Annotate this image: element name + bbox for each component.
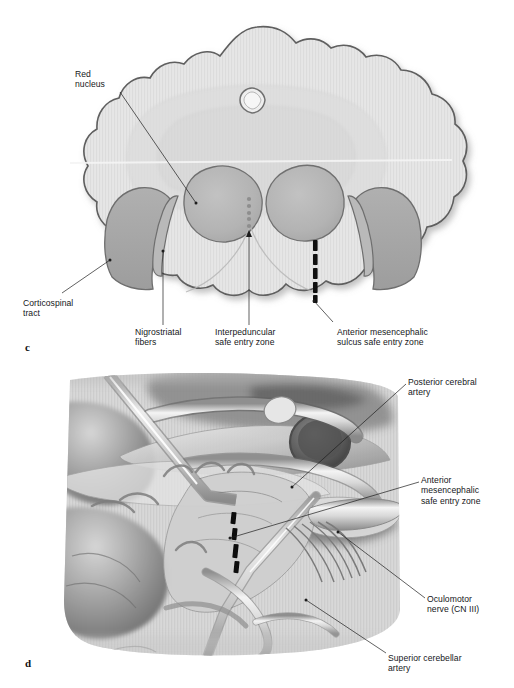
- label-oculomotor-nerve: Oculomotor nerve (CN III): [427, 594, 479, 615]
- label-posterior-cerebral-artery: Posterior cerebral artery: [408, 377, 477, 398]
- panel-d-illustration: [0, 360, 514, 688]
- ams-safe-entry-dash-marker: [313, 240, 318, 303]
- figure-page: Red nucleus Corticospinal tract Nigrostr…: [0, 0, 514, 688]
- label-nigrostriatal-fibers: Nigrostriatal fibers: [135, 327, 182, 348]
- label-superior-cerebellar-artery: Superior cerebellar artery: [388, 653, 462, 674]
- label-anterior-mesencephalic-safe-entry-zone: Anterior mesencephalic safe entry zone: [421, 475, 481, 506]
- label-red-nucleus: Red nucleus: [75, 69, 105, 90]
- label-ams-safe-entry-zone: Anterior mesencephalic sulcus safe entry…: [337, 327, 428, 348]
- panel-letter-d: d: [25, 657, 31, 669]
- operative-field: [55, 368, 410, 662]
- label-interpeduncular-safe-entry-zone: Interpeduncular safe entry zone: [215, 327, 275, 348]
- panel-c-illustration: [0, 0, 514, 360]
- label-corticospinal-tract: Corticospinal tract: [23, 298, 73, 319]
- panel-letter-c: c: [25, 341, 30, 353]
- cerebral-aqueduct: [240, 88, 265, 113]
- red-nucleus-right: [266, 165, 344, 241]
